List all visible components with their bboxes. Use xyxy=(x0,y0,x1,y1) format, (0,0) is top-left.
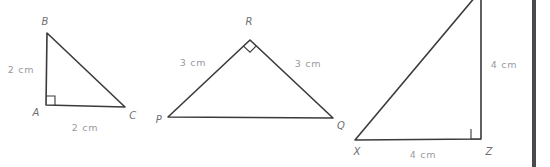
vertex-label-q: Q xyxy=(337,120,345,131)
measure-label-yz: 4 cm xyxy=(491,59,517,70)
figure-canvas: A B C 2 cm 2 cm P R Q 3 cm 3 cm X Z 4 cm… xyxy=(0,0,550,167)
measure-label-ab: 2 cm xyxy=(8,64,34,75)
vertex-label-r: R xyxy=(245,16,252,27)
measure-label-rq: 3 cm xyxy=(295,58,321,69)
geometry-figure: A B C 2 cm 2 cm P R Q 3 cm 3 cm X Z 4 cm… xyxy=(0,0,550,167)
vertex-label-a: A xyxy=(31,107,39,118)
triangle-abc: A B C 2 cm 2 cm xyxy=(8,16,137,133)
vertex-label-b: B xyxy=(41,16,48,27)
vertex-label-p: P xyxy=(156,114,163,125)
vertex-label-c: C xyxy=(129,110,136,121)
measure-label-pr: 3 cm xyxy=(180,57,206,68)
right-angle-marker-z xyxy=(471,129,481,139)
measure-label-ac: 2 cm xyxy=(72,122,98,133)
vertex-label-z: Z xyxy=(484,146,493,157)
triangle-xyz: X Z 4 cm 4 cm xyxy=(352,0,517,160)
triangle-pqr: P R Q 3 cm 3 cm xyxy=(156,16,345,131)
triangle-xyz-outline xyxy=(355,0,481,140)
triangle-abc-outline xyxy=(46,33,125,107)
right-angle-marker-a xyxy=(46,96,55,105)
vertex-label-x: X xyxy=(352,146,361,157)
measure-label-xz: 4 cm xyxy=(410,149,436,160)
right-angle-marker-r xyxy=(244,46,257,52)
